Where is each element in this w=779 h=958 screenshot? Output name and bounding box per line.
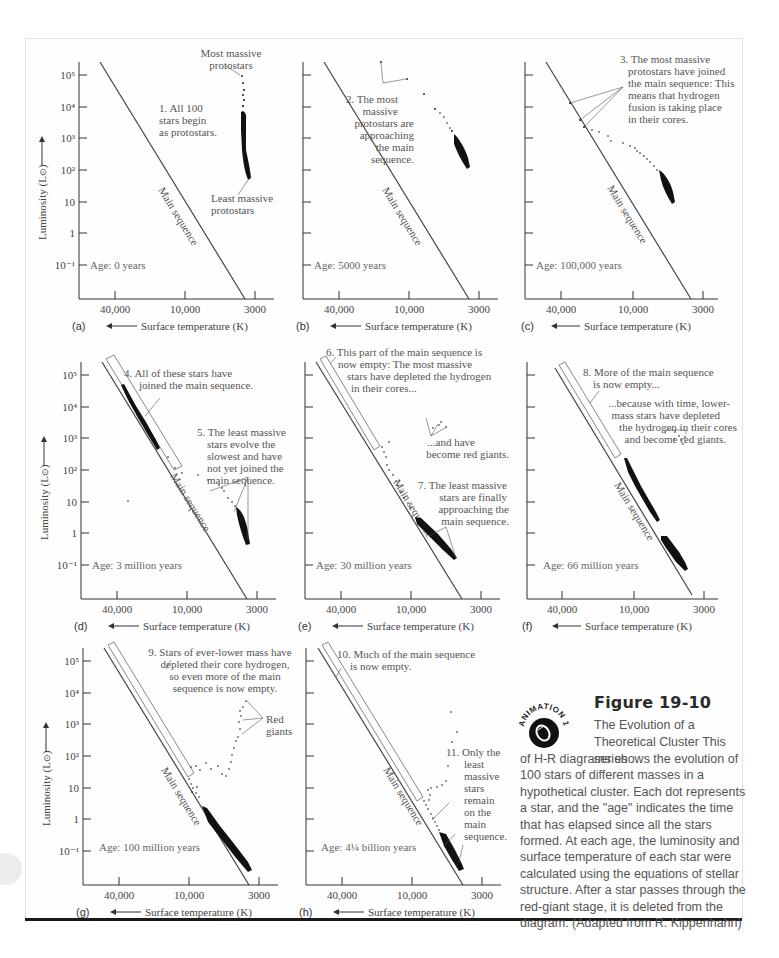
ytick-10: 10 — [66, 496, 78, 508]
xtick-40000: 40,000 — [546, 303, 577, 315]
panel-letter: (g) — [76, 906, 89, 918]
xtick-10000: 10,000 — [396, 603, 427, 615]
y-axis — [306, 648, 314, 885]
ytick-1e3: 10³ — [63, 432, 78, 444]
y-axis-title: Luminosity (L⊙) — [36, 136, 49, 240]
ytick-1e4: 10⁴ — [64, 687, 79, 699]
ytick-1e2: 10² — [63, 464, 78, 476]
star-dots — [423, 711, 464, 871]
arrow-left-icon — [110, 909, 116, 915]
xtick-3000: 3000 — [693, 603, 716, 615]
annotation: 2. The mostmassiveprotostars areapproach… — [346, 93, 415, 165]
hr-diagram-c: 40,000 10,000 3000 (c) Surface temperatu… — [513, 40, 763, 335]
xtick-40000: 40,000 — [104, 889, 135, 901]
arrow-left-icon — [552, 623, 558, 629]
ytick-1e5: 10⁵ — [64, 655, 79, 667]
y-axis — [305, 362, 313, 599]
xtick-40000: 40,000 — [547, 603, 578, 615]
arrow-left-icon — [332, 623, 338, 629]
xtick-3000: 3000 — [468, 303, 491, 315]
ytick-1e-1: 10⁻¹ — [57, 559, 77, 571]
ytick-1e3: 10³ — [65, 718, 80, 730]
main-sequence-label: Main sequence — [605, 183, 650, 246]
age-label: Age: 100 million years — [99, 841, 200, 853]
annotation: 6. This part of the main sequence isnow … — [326, 346, 492, 394]
y-axis-title: Luminosity (L⊙) — [40, 722, 53, 826]
panel-a: 10⁵ 10⁴ 10³ 10² 10 1 10⁻¹ Luminosity (L⊙… — [30, 40, 280, 335]
ytick-1e5: 10⁵ — [60, 69, 75, 81]
xtick-10000: 10,000 — [397, 889, 428, 901]
y-axis: 10⁵ 10⁴ 10³ 10² 10 1 10⁻¹ Luminosity (L⊙… — [38, 362, 89, 599]
annotation: 3. The most massiveprotostars have joine… — [620, 53, 734, 125]
hr-diagram-f: 40,000 10,000 3000 (f) Surface temperatu… — [513, 340, 763, 635]
xtick-10000: 10,000 — [174, 889, 205, 901]
annotation: 10. Much of the main sequenceis now empt… — [337, 648, 475, 672]
x-axis-title: Surface temperature (K) — [145, 906, 252, 919]
annotation: 4. All of these stars havejoined the mai… — [124, 367, 253, 391]
age-label: Age: 66 million years — [543, 559, 639, 571]
x-axis-title: Surface temperature (K) — [584, 320, 691, 333]
age-label: Age: 100,000 years — [536, 259, 622, 271]
xtick-10000: 10,000 — [394, 303, 425, 315]
annotation: 8. More of the main sequenceis now empty… — [583, 366, 714, 390]
xtick-3000: 3000 — [692, 303, 715, 315]
xtick-40000: 40,000 — [324, 303, 355, 315]
arrow-left-icon — [106, 323, 112, 329]
star-dots — [241, 75, 251, 180]
annotation-pointers — [570, 87, 623, 127]
hr-diagram-e: 40,000 10,000 3000 (e) Surface temperatu… — [283, 340, 533, 635]
hr-diagram-d: 10⁵ 10⁴ 10³ 10² 10 1 10⁻¹ Luminosity (L⊙… — [30, 340, 280, 635]
xtick-10000: 10,000 — [170, 303, 201, 315]
xtick-10000: 10,000 — [619, 603, 650, 615]
ytick-1: 1 — [72, 527, 78, 539]
ytick-1e2: 10² — [61, 164, 76, 176]
x-axis: 40,000 10,000 3000 (h) Surface temperatu… — [299, 877, 501, 919]
hr-diagram-h: 40,000 10,000 3000 (h) Surface temperatu… — [283, 630, 533, 925]
xtick-40000: 40,000 — [326, 603, 357, 615]
xtick-3000: 3000 — [470, 603, 493, 615]
xtick-40000: 40,000 — [102, 603, 133, 615]
annotation: 9. Stars of ever-lower mass havedepleted… — [148, 646, 291, 694]
animation-badge-icon[interactable]: ANIMATION 19.1 — [514, 697, 574, 757]
figure-number: Figure 19-10 — [594, 693, 711, 712]
y-axis: 10⁵ 10⁴ 10³ 10² 10 1 10⁻¹ Luminosity (L⊙… — [40, 648, 91, 885]
hr-diagram-a: 10⁵ 10⁴ 10³ 10² 10 1 10⁻¹ Luminosity (L⊙… — [30, 40, 280, 335]
x-axis: 40,000 10,000 3000 (e) Surface temperatu… — [298, 591, 500, 633]
age-label: Age: 5000 years — [314, 259, 386, 271]
annotation: 7. The least massivestars are finallyapp… — [418, 479, 509, 527]
age-label: Age: 4¼ billion years — [321, 841, 416, 853]
age-label: Age: 30 million years — [316, 559, 412, 571]
x-axis: 40,000 10,000 3000 (c) Surface temperatu… — [521, 291, 718, 333]
ytick-1e-1: 10⁻¹ — [55, 259, 75, 271]
ytick-1e2: 10² — [65, 750, 80, 762]
x-axis-title: Surface temperature (K) — [585, 620, 692, 633]
y-axis — [303, 62, 311, 299]
panel-h: 40,000 10,000 3000 (h) Surface temperatu… — [283, 630, 533, 925]
svg-text:Luminosity (L⊙): Luminosity (L⊙) — [36, 164, 49, 240]
arrow-left-icon — [330, 323, 336, 329]
annotation: 11. Only theleastmassivestarsremainon th… — [446, 746, 507, 842]
arrow-left-icon — [551, 323, 557, 329]
x-axis: 40,000 10,000 3000 (f) Surface temperatu… — [522, 591, 718, 633]
panel-letter: (c) — [521, 320, 534, 332]
xtick-10000: 10,000 — [172, 603, 203, 615]
panel-letter: (b) — [296, 320, 309, 332]
y-axis: 10⁵ 10⁴ 10³ 10² 10 1 10⁻¹ Luminosity (L⊙… — [36, 62, 87, 299]
xtick-3000: 3000 — [471, 889, 494, 901]
ytick-1e-1: 10⁻¹ — [59, 845, 79, 857]
xtick-40000: 40,000 — [100, 303, 131, 315]
annotation: Least massiveprotostars — [211, 192, 273, 216]
ytick-10: 10 — [68, 782, 80, 794]
ytick-10: 10 — [64, 196, 76, 208]
panel-f: 40,000 10,000 3000 (f) Surface temperatu… — [513, 340, 763, 635]
hr-diagram-b: 40,000 10,000 3000 (b) Surface temperatu… — [283, 40, 533, 335]
x-axis-title: Surface temperature (K) — [365, 320, 472, 333]
arrow-left-icon — [333, 909, 339, 915]
panel-b: 40,000 10,000 3000 (b) Surface temperatu… — [283, 40, 533, 335]
ytick-1e3: 10³ — [61, 132, 76, 144]
page-edge-circle — [0, 853, 22, 885]
figure-body-text: of H-R diagrams shows the evolution of 1… — [520, 751, 746, 931]
age-label: Age: 3 million years — [92, 559, 182, 571]
panel-c: 40,000 10,000 3000 (c) Surface temperatu… — [513, 40, 763, 335]
svg-text:Luminosity (L⊙): Luminosity (L⊙) — [38, 464, 51, 540]
